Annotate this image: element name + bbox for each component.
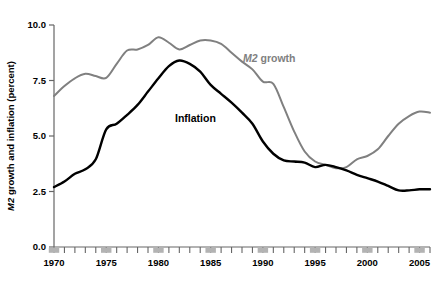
y-tick-label: 0.0 bbox=[33, 241, 46, 252]
x-tick-label: 1990 bbox=[252, 257, 273, 268]
inflation-label: Inflation bbox=[175, 112, 216, 124]
y-tick-label: 5.0 bbox=[33, 130, 46, 141]
chart-container: 0.02.55.07.510.0 19701975198019851990199… bbox=[0, 0, 441, 281]
x-axis-year-marker bbox=[310, 248, 320, 253]
x-tick-label: 2000 bbox=[357, 257, 378, 268]
x-tick-label: 2005 bbox=[409, 257, 431, 268]
x-axis-year-marker bbox=[362, 248, 372, 253]
x-tick-label: 1970 bbox=[43, 257, 64, 268]
y-tick-label: 2.5 bbox=[33, 186, 47, 197]
y-tick-label: 7.5 bbox=[33, 75, 47, 86]
x-axis-year-marker bbox=[49, 248, 59, 253]
x-tick-label: 1975 bbox=[96, 257, 118, 268]
x-tick-label: 1985 bbox=[200, 257, 222, 268]
x-axis-year-marker bbox=[101, 248, 111, 253]
y-axis-title: M2 growth and inflation (percent) bbox=[5, 61, 16, 211]
x-axis-year-marker bbox=[153, 248, 163, 253]
line-chart: 0.02.55.07.510.0 19701975198019851990199… bbox=[0, 0, 441, 281]
y-axis-title-text: M2 growth and inflation (percent) bbox=[5, 61, 16, 211]
chart-background bbox=[0, 0, 441, 281]
y-tick-label: 10.0 bbox=[28, 19, 47, 30]
x-axis-year-marker bbox=[414, 248, 424, 253]
x-tick-label: 1980 bbox=[148, 257, 169, 268]
x-tick-label: 1995 bbox=[305, 257, 327, 268]
x-axis-year-marker bbox=[205, 248, 215, 253]
m2-growth-label: M2 growth bbox=[243, 52, 296, 64]
x-axis-year-marker bbox=[258, 248, 268, 253]
